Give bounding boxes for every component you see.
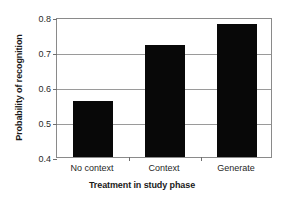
- bar: [217, 24, 257, 157]
- y-tick-mark: [53, 159, 57, 160]
- x-axis-title: Treatment in study phase: [0, 180, 284, 190]
- x-tick-mark: [201, 157, 202, 161]
- bar: [145, 45, 185, 157]
- y-tick-label: 0.5: [38, 120, 51, 129]
- y-axis-title: Probability of recognition: [12, 15, 26, 160]
- y-tick-mark: [53, 124, 57, 125]
- x-tick-label: Generate: [191, 163, 281, 173]
- y-tick-mark: [53, 19, 57, 20]
- plot-area: 0.40.50.60.70.8: [56, 18, 272, 158]
- bar-chart-figure: Probability of recognition 0.40.50.60.70…: [0, 0, 284, 199]
- bar: [73, 101, 113, 157]
- y-tick-label: 0.7: [38, 50, 51, 59]
- x-tick-mark: [129, 157, 130, 161]
- y-tick-label: 0.6: [38, 85, 51, 94]
- y-tick-label: 0.8: [38, 15, 51, 24]
- y-tick-mark: [53, 54, 57, 55]
- y-tick-mark: [53, 89, 57, 90]
